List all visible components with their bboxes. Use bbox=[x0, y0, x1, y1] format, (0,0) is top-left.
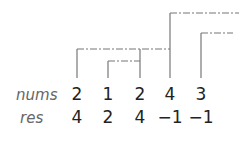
nums-value: 2 bbox=[135, 86, 146, 103]
nums-value: 4 bbox=[165, 86, 176, 103]
res-label: res bbox=[20, 111, 43, 126]
res-value: 4 bbox=[135, 109, 146, 126]
nums-value: 1 bbox=[103, 86, 114, 103]
res-value: 4 bbox=[72, 109, 83, 126]
nums-label: nums bbox=[16, 88, 57, 103]
nums-value: 2 bbox=[72, 86, 83, 103]
nums-value: 3 bbox=[196, 86, 207, 103]
res-value: −1 bbox=[188, 109, 213, 126]
res-value: −1 bbox=[157, 109, 182, 126]
res-value: 2 bbox=[103, 109, 114, 126]
